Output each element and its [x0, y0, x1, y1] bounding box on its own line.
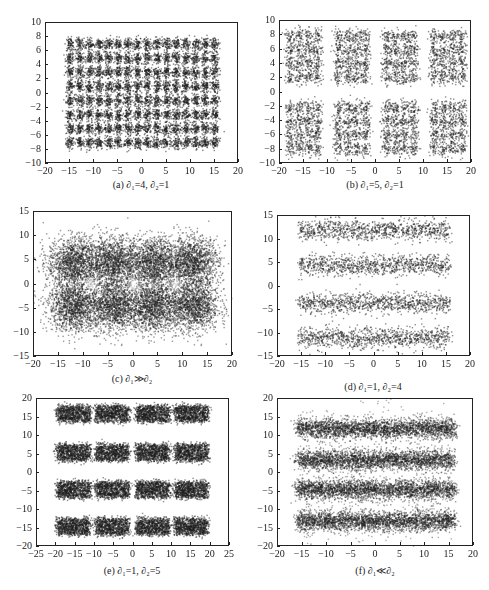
x-tick-label: 10	[411, 166, 435, 176]
scatter-plot-d	[277, 215, 470, 356]
x-tick-mark	[108, 352, 109, 355]
x-tick-label: −20	[267, 166, 291, 176]
y-tick-mark	[45, 22, 48, 23]
y-tick-label: −15	[251, 523, 273, 533]
y-tick-mark	[36, 454, 39, 455]
x-tick-label: 0	[362, 359, 386, 369]
scatter-plot-b	[279, 20, 471, 163]
y-tick-label: 8	[253, 29, 275, 39]
y-tick-mark	[279, 134, 282, 135]
y-tick-label: 6	[19, 45, 41, 55]
y-tick-mark	[277, 528, 280, 529]
x-tick-mark	[207, 352, 208, 355]
y-tick-mark	[277, 262, 280, 263]
x-tick-mark	[473, 542, 474, 545]
x-tick-mark	[375, 159, 376, 162]
y-tick-label: 5	[251, 257, 273, 267]
y-tick-mark	[45, 107, 48, 108]
x-tick-mark	[210, 542, 211, 545]
x-tick-label: 15	[195, 359, 219, 369]
y-tick-label: 10	[251, 234, 273, 244]
x-tick-mark	[69, 159, 70, 162]
x-tick-label: 5	[386, 359, 410, 369]
x-tick-mark	[232, 352, 233, 355]
x-tick-mark	[446, 352, 447, 355]
x-tick-mark	[36, 542, 37, 545]
x-tick-mark	[400, 542, 401, 545]
y-tick-mark	[36, 491, 39, 492]
x-tick-mark	[449, 542, 450, 545]
y-tick-label: 10	[10, 430, 32, 440]
y-tick-label: −8	[19, 144, 41, 154]
x-tick-mark	[133, 542, 134, 545]
y-tick-label: 2	[19, 73, 41, 83]
x-tick-mark	[302, 542, 303, 545]
x-tick-mark	[229, 542, 230, 545]
caption-d: (d) ∂₁=1, ∂₂=4	[253, 381, 489, 392]
y-tick-mark	[33, 308, 36, 309]
y-tick-label: −15	[10, 523, 32, 533]
x-tick-label: 5	[154, 166, 178, 176]
x-tick-mark	[447, 159, 448, 162]
x-tick-mark	[214, 159, 215, 162]
y-tick-mark	[279, 149, 282, 150]
y-tick-label: 20	[251, 393, 273, 403]
y-tick-mark	[36, 528, 39, 529]
x-tick-mark	[58, 352, 59, 355]
caption-a: (a) ∂₁=4, ∂₂=1	[21, 179, 261, 190]
x-tick-label: −5	[339, 549, 363, 559]
x-tick-label: −20	[33, 166, 57, 176]
y-tick-mark	[45, 163, 48, 164]
scatter-plot-a	[45, 22, 238, 163]
x-tick-mark	[471, 159, 472, 162]
y-tick-label: −5	[7, 303, 29, 313]
x-tick-label: −15	[57, 166, 81, 176]
y-tick-label: 0	[10, 467, 32, 477]
x-tick-label: 10	[178, 166, 202, 176]
y-tick-label: 10	[253, 15, 275, 25]
y-tick-label: −10	[251, 328, 273, 338]
y-tick-mark	[277, 546, 280, 547]
y-tick-label: 0	[19, 88, 41, 98]
x-tick-label: −10	[81, 166, 105, 176]
y-tick-label: 8	[19, 31, 41, 41]
y-tick-label: −2	[19, 102, 41, 112]
x-tick-mark	[327, 159, 328, 162]
x-tick-label: −15	[291, 166, 315, 176]
y-tick-label: 10	[7, 230, 29, 240]
y-tick-label: 2	[253, 72, 275, 82]
y-tick-label: −8	[253, 144, 275, 154]
x-tick-mark	[424, 542, 425, 545]
x-tick-mark	[75, 542, 76, 545]
x-tick-mark	[375, 542, 376, 545]
y-tick-mark	[33, 259, 36, 260]
x-tick-mark	[117, 159, 118, 162]
y-tick-mark	[45, 121, 48, 122]
x-tick-mark	[351, 542, 352, 545]
x-tick-mark	[190, 542, 191, 545]
y-tick-label: −10	[7, 327, 29, 337]
x-tick-label: 15	[434, 359, 458, 369]
caption-f: (f) ∂₁≪∂₂	[255, 565, 489, 576]
y-tick-mark	[277, 509, 280, 510]
y-tick-mark	[45, 93, 48, 94]
y-tick-mark	[36, 546, 39, 547]
y-tick-label: −10	[10, 504, 32, 514]
y-tick-mark	[277, 398, 280, 399]
y-tick-label: −5	[251, 486, 273, 496]
x-tick-label: 25	[217, 549, 241, 559]
y-tick-mark	[279, 92, 282, 93]
y-tick-mark	[277, 491, 280, 492]
y-tick-mark	[33, 235, 36, 236]
y-tick-mark	[45, 135, 48, 136]
x-tick-label: 0	[130, 166, 154, 176]
y-tick-mark	[45, 50, 48, 51]
y-tick-label: 4	[253, 58, 275, 68]
y-tick-mark	[277, 417, 280, 418]
y-tick-mark	[36, 509, 39, 510]
x-tick-label: 0	[363, 549, 387, 559]
y-tick-mark	[33, 356, 36, 357]
y-tick-mark	[277, 239, 280, 240]
x-tick-label: −10	[314, 549, 338, 559]
x-tick-mark	[422, 352, 423, 355]
